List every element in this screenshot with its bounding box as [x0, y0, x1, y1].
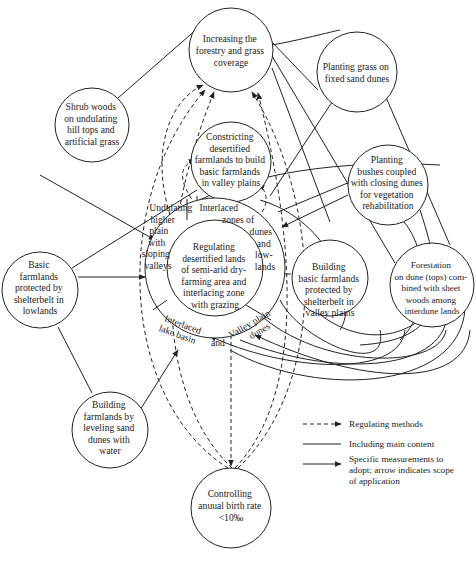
legend-solid-label: Including main content	[349, 439, 435, 449]
arrow-forestation-lowlands	[255, 330, 470, 374]
arrow-shrub-center	[40, 175, 155, 240]
label-and: and	[211, 337, 225, 348]
diagram-canvas: Increasing the forestry and grass covera…	[0, 0, 476, 561]
label-shrub: Shrub woods on undulating hill tops and …	[64, 101, 119, 147]
line-grass-center	[270, 102, 332, 196]
label-grass-dunes: Planting grass on fixed sand dunes	[323, 61, 392, 84]
line-lowlands-leveling	[58, 327, 92, 393]
arrow-bushes-center	[282, 195, 348, 227]
line-bushes-center-2	[278, 182, 350, 212]
node-grass-dunes	[317, 32, 397, 112]
line-shrub-forestry	[118, 28, 198, 98]
legend-arrow-label: Specific measurements to adopt; arrow in…	[349, 454, 456, 486]
legend-dashed-label: Regulating methods	[349, 419, 423, 429]
legend: Regulating methods Including main conten…	[303, 419, 456, 486]
